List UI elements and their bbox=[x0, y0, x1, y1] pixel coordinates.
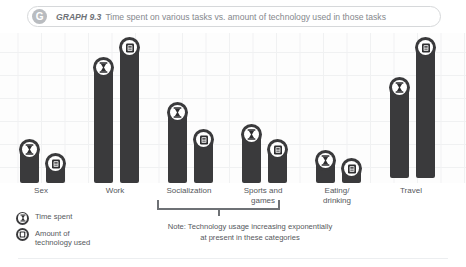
bar-travel-time-spent bbox=[390, 78, 409, 178]
device-icon bbox=[16, 228, 29, 241]
legend-label-time-spent: Time spent bbox=[35, 211, 72, 221]
bracket-tick-center bbox=[218, 208, 220, 216]
bar-socialization-time-spent bbox=[168, 103, 187, 183]
bar-sports-time-spent bbox=[242, 125, 261, 183]
category-label-travel: Travel bbox=[375, 186, 447, 196]
hourglass-icon bbox=[19, 139, 40, 160]
bar-work-technology bbox=[120, 38, 139, 183]
category-label-work: Work bbox=[79, 186, 151, 196]
category-label-socialization: Socialization bbox=[153, 186, 225, 196]
device-icon bbox=[267, 139, 288, 160]
category-bracket bbox=[157, 200, 280, 213]
chart-legend: Time spent Amount of technology used bbox=[16, 211, 90, 250]
footer-divider bbox=[18, 258, 448, 259]
bar-socialization-technology bbox=[194, 130, 213, 183]
hourglass-icon bbox=[315, 150, 336, 171]
graph-header: G GRAPH 9.3 Time spent on various tasks … bbox=[27, 6, 441, 27]
bar-travel-technology bbox=[416, 38, 435, 178]
chart-note: Note: Technology usage increasing expone… bbox=[140, 222, 360, 243]
device-icon bbox=[45, 153, 66, 174]
legend-item-technology: Amount of technology used bbox=[16, 228, 90, 247]
graph-caption-label: Time spent on various tasks vs. amount o… bbox=[105, 12, 386, 22]
graph-number-label: GRAPH 9.3 bbox=[56, 12, 101, 22]
legend-label-technology: Amount of technology used bbox=[35, 228, 90, 247]
category-label-sex: Sex bbox=[5, 186, 77, 196]
category-label-eating: Eating/ drinking bbox=[301, 186, 373, 206]
graph-figure: G GRAPH 9.3 Time spent on various tasks … bbox=[0, 0, 466, 267]
bar-eating-technology bbox=[342, 159, 361, 183]
bracket-tick-right bbox=[278, 200, 280, 209]
bar-sex-technology bbox=[46, 154, 65, 183]
device-icon bbox=[193, 129, 214, 150]
graph-badge-icon: G bbox=[32, 9, 47, 24]
bar-sports-technology bbox=[268, 140, 287, 183]
hourglass-icon bbox=[241, 124, 262, 145]
device-icon bbox=[119, 37, 140, 58]
bar-work-time-spent bbox=[94, 58, 113, 183]
hourglass-icon bbox=[93, 57, 114, 78]
device-icon bbox=[341, 158, 362, 179]
bar-sex-time-spent bbox=[20, 140, 39, 183]
bar-eating-time-spent bbox=[316, 151, 335, 183]
hourglass-icon bbox=[389, 77, 410, 98]
hourglass-icon bbox=[16, 212, 29, 225]
legend-item-time-spent: Time spent bbox=[16, 211, 90, 225]
hourglass-icon bbox=[167, 102, 188, 123]
device-icon bbox=[415, 37, 436, 58]
